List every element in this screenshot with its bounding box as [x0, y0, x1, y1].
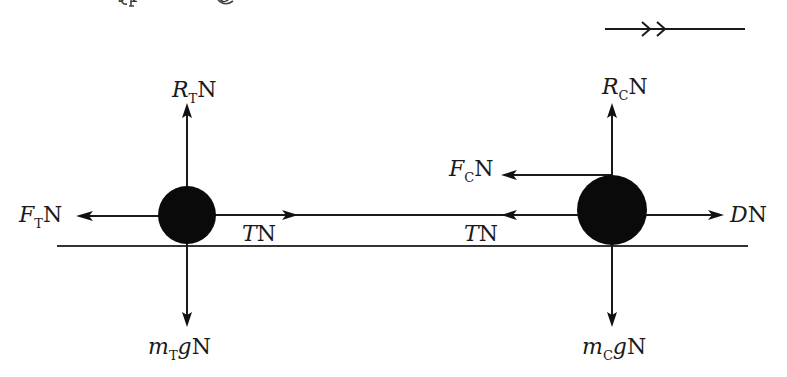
tractor-body — [158, 186, 216, 244]
label-friction-tractor: FTN — [18, 202, 62, 231]
label-weight-car: mCgN — [582, 334, 646, 363]
label-weight-tractor: mTgN — [148, 334, 211, 363]
label-friction-car: FCN — [448, 156, 493, 185]
force-diagram: yp g RTN FTN — [0, 0, 787, 377]
car-body-group: RCN FCN TN DN mCgN — [448, 74, 767, 363]
direction-of-motion-arrow — [605, 22, 745, 36]
label-driving-force-car: DN — [729, 202, 767, 227]
car-body — [577, 175, 647, 245]
tractor-body-group: RTN FTN TN mTgN — [18, 77, 298, 363]
label-reaction-tractor: RTN — [171, 77, 217, 106]
label-reaction-car: RCN — [601, 74, 648, 103]
label-tension-tractor: TN — [242, 221, 276, 246]
label-tension-car: TN — [464, 221, 498, 246]
cutoff-text-line: yp g — [117, 0, 233, 6]
